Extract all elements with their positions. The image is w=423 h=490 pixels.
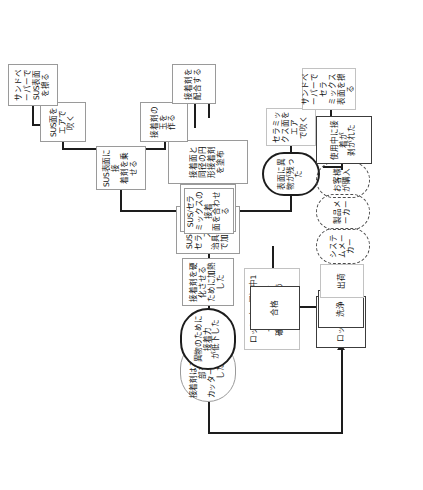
- node-peeled-in-use-label: 使用中に接着が剥がれた: [331, 119, 358, 161]
- node-debris-left-label: 表面に異物が残った: [278, 156, 305, 192]
- flowchart-canvas: 接着剤はみ出し部をカッターで除去した 異物のために接着力が低下した 接着剤を硬化…: [0, 0, 423, 490]
- node-put-adhesive-sus-label: SUS表面に接着剤を乗せる: [103, 149, 139, 187]
- node-align-faces-label: SUS/セラミックスの接着面を合わせる: [187, 191, 232, 231]
- node-air-blow-ceramic-label: セラミックス面をエアで吹く: [273, 111, 309, 143]
- connector-left-to-lotpass: [341, 348, 343, 434]
- node-heat-cure[interactable]: 接着剤を硬化させるために加熱した: [182, 258, 234, 306]
- node-align-faces[interactable]: SUS/セラミックスの接着面を合わせる: [184, 188, 234, 234]
- node-customer-buy-label: お客様が購入: [334, 165, 352, 195]
- node-sand-sus-label: サンドペーパーでSUS表面を擦る: [15, 67, 51, 103]
- node-debris-left[interactable]: 表面に異物が残った: [262, 152, 320, 196]
- node-make-ball-label: 接着剤の玉を作る: [151, 105, 178, 139]
- node-sand-ceramic[interactable]: サンドペーパーでセラミックス表面を擦る: [302, 68, 356, 110]
- node-put-adhesive-sus[interactable]: SUS表面に接着剤を乗せる: [96, 146, 146, 190]
- node-heat-cure-label: 接着剤を硬化させるために加熱した: [190, 261, 226, 303]
- node-pass[interactable]: 合格: [250, 286, 300, 330]
- node-ship[interactable]: 出荷: [320, 264, 364, 298]
- connector-align-up-h: [120, 190, 122, 212]
- node-product-maker-label: 製品メーカー: [334, 197, 352, 227]
- node-foreign-matter-strength[interactable]: 異物のために接着力が低下した: [180, 308, 236, 370]
- node-pass-label: 合格: [271, 300, 280, 316]
- node-peeled-in-use[interactable]: 使用中に接着が剥がれた: [316, 116, 372, 164]
- node-mix-adhesive-label: 接着剤を配合する: [185, 68, 203, 99]
- node-foreign-matter-strength-label: 異物のために接着力が低下した: [195, 312, 222, 366]
- connector-mix-h: [194, 104, 196, 128]
- node-system-maker-label: システムメーカー: [330, 231, 357, 261]
- node-apply-circle[interactable]: 接着面と同径の円形接着剤を塗布: [168, 140, 248, 184]
- node-ship-label: 出荷: [338, 273, 347, 289]
- connector-lottest-pass: [272, 246, 274, 268]
- node-air-blow-sus-label: SUS面をエアで吹く: [50, 105, 77, 139]
- node-product-maker[interactable]: 製品メーカー: [316, 194, 370, 230]
- node-air-blow-sus[interactable]: SUS面をエアで吹く: [40, 102, 86, 142]
- node-make-ball[interactable]: 接着剤の玉を作る: [140, 102, 188, 142]
- node-customer-buy[interactable]: お客様が購入: [316, 162, 370, 198]
- connector-spine-4: [208, 104, 210, 118]
- node-wash-label: 洗浄: [337, 301, 346, 317]
- connector-left-stub: [208, 402, 210, 434]
- node-sand-ceramic-label: サンドペーパーでセラミックス表面を擦る: [302, 71, 356, 107]
- connector-sand-h: [32, 106, 34, 126]
- node-mix-adhesive[interactable]: 接着剤を配合する: [172, 64, 216, 104]
- node-apply-circle-label: 接着面と同径の円形接着剤を塗布: [190, 143, 226, 181]
- node-system-maker[interactable]: システムメーカー: [316, 228, 370, 264]
- connector-left-down: [208, 432, 343, 434]
- node-air-blow-ceramic[interactable]: セラミックス面をエアで吹く: [266, 108, 316, 146]
- node-sand-sus[interactable]: サンドペーパーでSUS表面を擦る: [8, 64, 58, 106]
